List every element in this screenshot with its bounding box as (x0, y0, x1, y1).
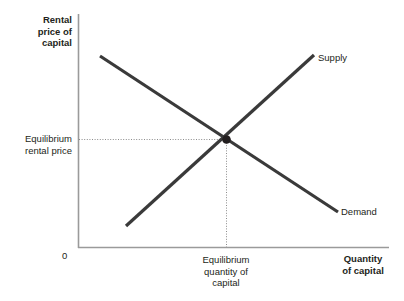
equilibrium-quantity-label: Equilibrium quantity of capital (181, 254, 271, 289)
demand-curve-label: Demand (341, 206, 377, 218)
supply-curve-label: Supply (318, 52, 347, 64)
x-axis-label: Quantity of capital (330, 253, 396, 276)
equilibrium-price-label: Equilibrium rental price (6, 133, 72, 156)
equilibrium-point-marker[interactable] (222, 135, 231, 144)
supply-demand-chart: Rental price of capital Quantity of capi… (0, 0, 404, 301)
demand-curve[interactable] (100, 56, 338, 212)
y-axis-label: Rental price of capital (8, 14, 72, 49)
origin-label: 0 (62, 250, 67, 262)
supply-curve[interactable] (126, 55, 314, 226)
